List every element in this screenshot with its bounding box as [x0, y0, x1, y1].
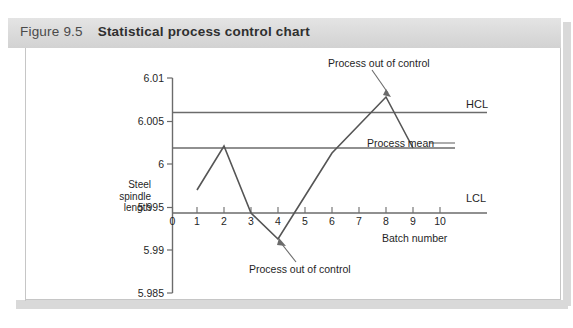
y-tick-label-2: 6: [116, 158, 164, 170]
x-axis-title: Batch number: [382, 232, 447, 244]
x-tick-label-6: 6: [325, 215, 339, 227]
y-axis-title: Steel spindle length: [99, 179, 151, 214]
x-tick-label-0: 0: [166, 215, 180, 227]
y-tick-label-5: 5.985: [110, 287, 164, 299]
y-axis-title-line-1: Steel: [99, 179, 151, 191]
annotation-top-label: Process out of control: [328, 57, 430, 69]
x-tick-label-4: 4: [271, 215, 285, 227]
figure-shadow-bottom: [16, 300, 568, 309]
figure-shadow-right: [563, 22, 571, 306]
x-tick-label-5: 5: [298, 215, 312, 227]
figure-plate-left-edge: [25, 48, 26, 301]
y-axis-title-line-2: spindle: [99, 191, 151, 203]
x-tick-label-10: 10: [433, 215, 447, 227]
x-tick-label-9: 9: [406, 215, 420, 227]
lcl-label: LCL: [466, 192, 486, 204]
y-tick-label-0: 6.01: [116, 72, 164, 84]
y-tick-label-4: 5.99: [113, 244, 164, 256]
x-tick-label-8: 8: [379, 215, 393, 227]
hcl-label: HCL: [466, 98, 488, 110]
x-tick-label-7: 7: [352, 215, 366, 227]
x-tick-label-3: 3: [244, 215, 258, 227]
figure-caption: Figure 9.5 Statistical process control c…: [20, 24, 310, 39]
figure-number: Figure 9.5: [20, 24, 83, 39]
figure-container: Figure 9.5 Statistical process control c…: [0, 0, 573, 328]
x-tick-label-1: 1: [190, 215, 204, 227]
y-axis-title-line-3: length: [99, 202, 151, 214]
y-tick-label-1: 6.005: [110, 115, 164, 127]
annotation-bottom-label: Process out of control: [249, 263, 351, 275]
x-tick-label-2: 2: [217, 215, 231, 227]
figure-title: Statistical process control chart: [98, 24, 310, 39]
process-mean-label: Process mean: [367, 137, 434, 149]
